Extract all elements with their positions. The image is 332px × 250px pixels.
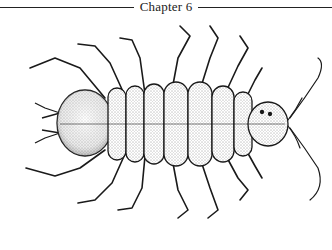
- header-rule-left: [0, 7, 134, 8]
- header-rule-right: [198, 7, 332, 8]
- isopod-drawing: [0, 18, 332, 250]
- isopod-illustration: [0, 18, 332, 250]
- antennae: [288, 58, 322, 200]
- chapter-header: Chapter 6: [0, 0, 332, 14]
- uropods: [35, 103, 60, 143]
- chapter-title: Chapter 6: [140, 1, 193, 13]
